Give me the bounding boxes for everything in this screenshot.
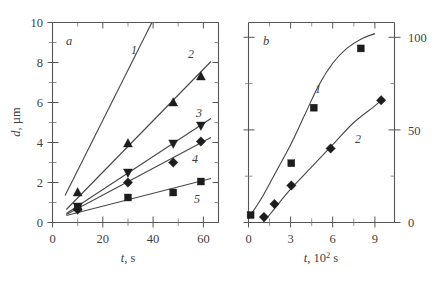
panel-a-curve-label-4: 4 [192, 152, 198, 166]
figure-container: 0 2 4 6 8 10 0 20 40 60 t, s d, µm [0, 0, 437, 286]
panel-b-curve-label-2: 2 [355, 132, 361, 146]
data-point-1-0 [247, 212, 254, 219]
panel-b-ytick-50: 50 [408, 124, 421, 138]
panel-b-xtick-6: 6 [330, 232, 336, 246]
panel-a: 0 2 4 6 8 10 0 20 40 60 t, s d, µm [9, 16, 219, 265]
series-line-5 [66, 179, 211, 216]
panel-a-ytick-10: 10 [31, 16, 44, 30]
series-line-1 [65, 23, 152, 196]
data-point-2-2 [169, 98, 178, 106]
panel-a-ytick-4: 4 [37, 136, 44, 150]
series-line-3 [66, 119, 211, 214]
panel-a-ytick-2: 2 [37, 176, 43, 190]
panel-a-xaxis-unit: , s [124, 251, 135, 265]
svg-text:t, 102 s: t, 102 s [304, 250, 339, 265]
data-point-1-3 [357, 45, 364, 52]
data-point-2-0 [73, 188, 82, 196]
panel-a-ytick-0: 0 [37, 216, 43, 230]
panel-b-xaxis-unit2: s [330, 251, 338, 265]
svg-text:d, µm: d, µm [9, 107, 23, 137]
data-point-2-0 [259, 212, 268, 221]
data-point-5-3 [197, 178, 204, 185]
panel-b-label: b [263, 34, 269, 48]
panel-b-axes [249, 23, 395, 223]
data-point-1-2 [310, 104, 317, 111]
panel-b-ytick-0: 0 [408, 216, 414, 230]
panel-b-series-lines [251, 34, 384, 223]
panel-b-xtick-0: 0 [245, 232, 251, 246]
svg-text:t, s: t, s [121, 251, 136, 265]
panel-a-label: a [66, 34, 72, 48]
data-point-4-1 [123, 178, 132, 187]
panel-a-yaxis-title: d, µm [9, 107, 23, 137]
series-curve-2 [263, 98, 383, 222]
panel-b-x-ticks [249, 23, 375, 228]
series-curve-1 [251, 34, 375, 215]
panel-a-ytick-6: 6 [37, 96, 43, 110]
panel-a-xtick-40: 40 [147, 232, 160, 246]
panel-a-curve-label-5: 5 [194, 192, 200, 206]
panel-a-yaxis-unit: , µm [9, 107, 23, 130]
data-point-3-3 [196, 122, 205, 130]
data-point-5-0 [74, 204, 81, 211]
panel-b-curve-label-1: 1 [315, 82, 321, 96]
data-point-3-1 [123, 169, 132, 177]
panel-b-series-markers [247, 45, 386, 222]
panel-a-xtick-60: 60 [197, 232, 210, 246]
panel-b: 0 50 100 0 3 6 9 t, 102 s b 1 2 [244, 23, 427, 266]
data-point-1-1 [288, 160, 295, 167]
panel-a-curve-label-3: 3 [195, 106, 202, 120]
data-point-2-2 [287, 181, 296, 190]
panel-a-xaxis-title: t, s [121, 251, 136, 265]
panel-b-y-ticks [244, 37, 401, 222]
panel-a-xtick-20: 20 [97, 232, 110, 246]
panel-b-xaxis-title: t, 102 s [304, 250, 339, 265]
panel-a-curve-label-1: 1 [131, 43, 137, 57]
two-panel-chart: 0 2 4 6 8 10 0 20 40 60 t, s d, µm [0, 0, 437, 286]
panel-a-series-markers [73, 72, 206, 215]
panel-a-curve-label-2: 2 [188, 47, 194, 61]
panel-a-ytick-8: 8 [37, 56, 43, 70]
data-point-3-2 [169, 140, 178, 148]
panel-b-ytick-100: 100 [408, 31, 427, 45]
panel-b-xtick-3: 3 [287, 232, 293, 246]
panel-b-xtick-9: 9 [372, 232, 378, 246]
data-point-2-3 [326, 144, 335, 153]
panel-b-xaxis-unit: , 10 [307, 251, 326, 265]
data-point-2-1 [270, 199, 279, 208]
data-point-5-2 [170, 189, 177, 196]
data-point-5-1 [124, 194, 131, 201]
panel-a-xtick-0: 0 [49, 232, 55, 246]
series-line-2 [66, 62, 211, 210]
